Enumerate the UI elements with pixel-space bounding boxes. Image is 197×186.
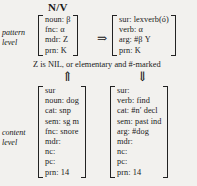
matrix-row: prn: 14 bbox=[117, 168, 161, 178]
matrix-row: sem: past ind bbox=[117, 117, 161, 127]
matrix-row: prn: K bbox=[119, 46, 169, 56]
content-level-right-matrix: sur: verb: find cat: #n′ decl sem: past … bbox=[110, 86, 168, 178]
matrix-row: cat: snp bbox=[45, 106, 79, 116]
content-level-left-matrix: sur noun: dog cat: snp sem: sg m fnc: sn… bbox=[38, 86, 86, 178]
matrix-row: arg: #dog bbox=[117, 127, 161, 137]
matrix-row: prn: 14 bbox=[45, 168, 79, 178]
matrix-row: sem: sg m bbox=[45, 117, 79, 127]
arrow-down-icon: ⇓ bbox=[137, 71, 148, 82]
matrix-row: pc: bbox=[117, 157, 161, 167]
right-bracket bbox=[73, 15, 78, 56]
matrix-row: prn: K bbox=[45, 46, 71, 56]
matrix-row: sur: lexverb(ó) bbox=[119, 15, 169, 25]
right-bracket bbox=[81, 86, 86, 178]
matrix-row: sur: bbox=[117, 86, 161, 96]
matrix-row: noun: dog bbox=[45, 96, 79, 106]
rule-implication-arrow-icon: ⇒ bbox=[97, 33, 107, 44]
pattern-level-label: pattern level bbox=[2, 28, 36, 47]
matrix-rows: noun: β fnc: α mdr: Z prn: K bbox=[43, 15, 73, 56]
arrow-up-icon: ⇑ bbox=[62, 71, 73, 82]
content-level-label: content level bbox=[2, 128, 36, 147]
rule-category-header: N/V bbox=[48, 1, 68, 13]
right-bracket bbox=[171, 15, 176, 56]
matrix-row: fnc: α bbox=[45, 25, 71, 35]
matrix-row: noun: β bbox=[45, 15, 71, 25]
matrix-row: mdr: bbox=[117, 137, 161, 147]
pattern-level-left-matrix: noun: β fnc: α mdr: Z prn: K bbox=[38, 15, 78, 56]
matrix-rows: sur: lexverb(ó) verb: α arg: #β Y prn: K bbox=[117, 15, 171, 56]
matrix-row: pc: bbox=[45, 157, 79, 167]
matrix-row: nc: bbox=[117, 147, 161, 157]
grammar-rule-diagram: N/V pattern level content level noun: β … bbox=[0, 0, 197, 186]
matrix-row: mdr: bbox=[45, 137, 79, 147]
pattern-level-right-matrix: sur: lexverb(ó) verb: α arg: #β Y prn: K bbox=[112, 15, 176, 56]
matrix-row: mdr: Z bbox=[45, 35, 71, 45]
right-bracket bbox=[163, 86, 168, 178]
matrix-rows: sur noun: dog cat: snp sem: sg m fnc: sn… bbox=[43, 86, 81, 178]
matrix-rows: sur: verb: find cat: #n′ decl sem: past … bbox=[115, 86, 163, 178]
matrix-row: nc: bbox=[45, 147, 79, 157]
matrix-row: sur bbox=[45, 86, 79, 96]
matrix-row: verb: find bbox=[117, 96, 161, 106]
matrix-row: arg: #β Y bbox=[119, 35, 169, 45]
matrix-row: fnc: snore bbox=[45, 127, 79, 137]
matrix-row: verb: α bbox=[119, 25, 169, 35]
matrix-row: cat: #n′ decl bbox=[117, 106, 161, 116]
